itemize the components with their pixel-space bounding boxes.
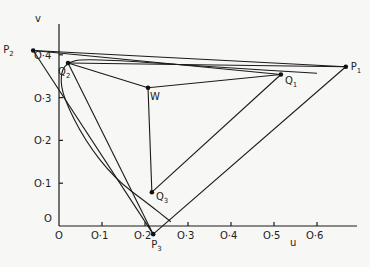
point-q2 [66, 61, 71, 66]
uv-diagram: OO·1O·2O·3O·4O·5O·6O·1O·2O·3O·4Ouv P1P2P… [0, 0, 370, 267]
point-p3 [151, 232, 156, 237]
u-tick-label: O [55, 230, 63, 241]
point-label-q2: Q2 [58, 66, 70, 80]
u-tick-label: O·6 [306, 230, 323, 241]
u-tick-label: O·3 [177, 230, 194, 241]
point-w [146, 85, 151, 90]
point-label-p3: P3 [151, 239, 162, 253]
v-tick-label: O·2 [34, 135, 51, 146]
u-axis-label: u [290, 237, 296, 248]
v-tick-label: O·3 [34, 93, 51, 104]
point-p2 [31, 48, 36, 53]
point-label-p1: P1 [351, 61, 362, 75]
point-q3 [150, 190, 155, 195]
u-tick-label: O·4 [220, 230, 237, 241]
u-tick-label: O·1 [91, 230, 108, 241]
point-label-q1: Q1 [285, 75, 297, 89]
origin-label: O [44, 213, 52, 224]
segment-q2-w [68, 63, 148, 88]
segment-q1-q3 [152, 74, 281, 192]
point-label-w: W [150, 91, 160, 102]
point-label-q3: Q3 [156, 191, 168, 205]
point-p1 [344, 64, 349, 69]
u-tick-label: O·2 [134, 230, 151, 241]
segment-w-q3 [148, 88, 152, 192]
segment-p1-p3 [153, 67, 346, 234]
point-q1 [279, 72, 284, 77]
v-tick-label: O·1 [34, 178, 51, 189]
v-axis-label: v [35, 13, 41, 24]
u-tick-label: O·5 [263, 230, 280, 241]
segment-w-q1 [148, 74, 281, 87]
segment-q2-p3 [68, 63, 153, 234]
point-label-p2: P2 [3, 44, 14, 58]
